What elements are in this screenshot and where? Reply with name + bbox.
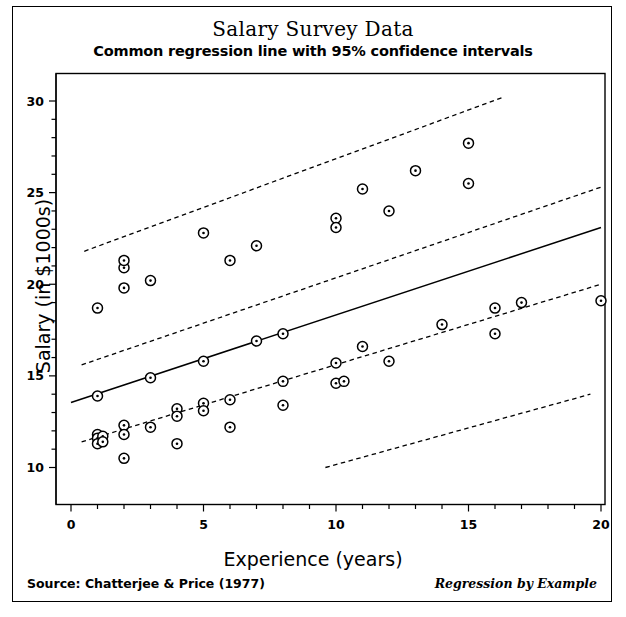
data-point: [172, 439, 182, 449]
data-point: [119, 430, 129, 440]
data-point: [172, 411, 182, 421]
data-point: [146, 422, 156, 432]
data-point: [199, 228, 209, 238]
plot-box: [56, 74, 605, 505]
data-point: [517, 298, 527, 308]
data-point: [146, 276, 156, 286]
y-axis-ticks: [49, 74, 56, 505]
data-point: [252, 241, 262, 251]
data-point: [225, 422, 235, 432]
data-point: [358, 184, 368, 194]
data-point: [384, 206, 394, 216]
confidence-band-lower-outer: [325, 394, 590, 467]
data-point: [331, 358, 341, 368]
data-point: [278, 400, 288, 410]
confidence-band-lines: [82, 97, 601, 467]
data-point: [464, 138, 474, 148]
x-tick-label: 10: [327, 517, 345, 532]
chart-page: Salary Survey Data Common regression lin…: [0, 0, 626, 617]
data-point: [199, 406, 209, 416]
y-axis-tick-labels: 1015202530: [27, 94, 45, 476]
data-point: [464, 178, 474, 188]
x-tick-label: 5: [199, 517, 208, 532]
data-point: [119, 453, 129, 463]
x-tick-label: 20: [592, 517, 610, 532]
data-point: [596, 296, 606, 306]
data-point: [98, 437, 108, 447]
data-point: [411, 166, 421, 176]
data-point: [225, 395, 235, 405]
x-tick-label: 0: [67, 517, 76, 532]
data-point: [93, 303, 103, 313]
data-point: [384, 356, 394, 366]
data-point: [358, 342, 368, 352]
data-point: [252, 336, 262, 346]
y-tick-label: 25: [27, 185, 44, 200]
y-tick-label: 10: [27, 460, 45, 475]
data-point: [331, 222, 341, 232]
data-point: [199, 356, 209, 366]
data-point: [278, 376, 288, 386]
y-tick-label: 30: [27, 94, 45, 109]
data-point: [119, 283, 129, 293]
x-axis-ticks: [71, 505, 601, 512]
data-point: [146, 373, 156, 383]
confidence-band-upper-outer: [84, 97, 503, 251]
data-point: [93, 391, 103, 401]
y-tick-label: 15: [27, 368, 44, 383]
x-axis-tick-labels: 05101520: [67, 517, 610, 532]
data-point: [278, 329, 288, 339]
data-point: [490, 303, 500, 313]
data-point: [225, 255, 235, 265]
x-tick-label: 15: [460, 517, 477, 532]
data-point: [339, 376, 349, 386]
data-point: [437, 320, 447, 330]
data-point: [490, 329, 500, 339]
data-point: [119, 255, 129, 265]
scatter-plot: 05101520 1015202530: [0, 0, 626, 617]
confidence-band-upper-inner: [82, 187, 601, 365]
y-tick-label: 20: [27, 277, 45, 292]
